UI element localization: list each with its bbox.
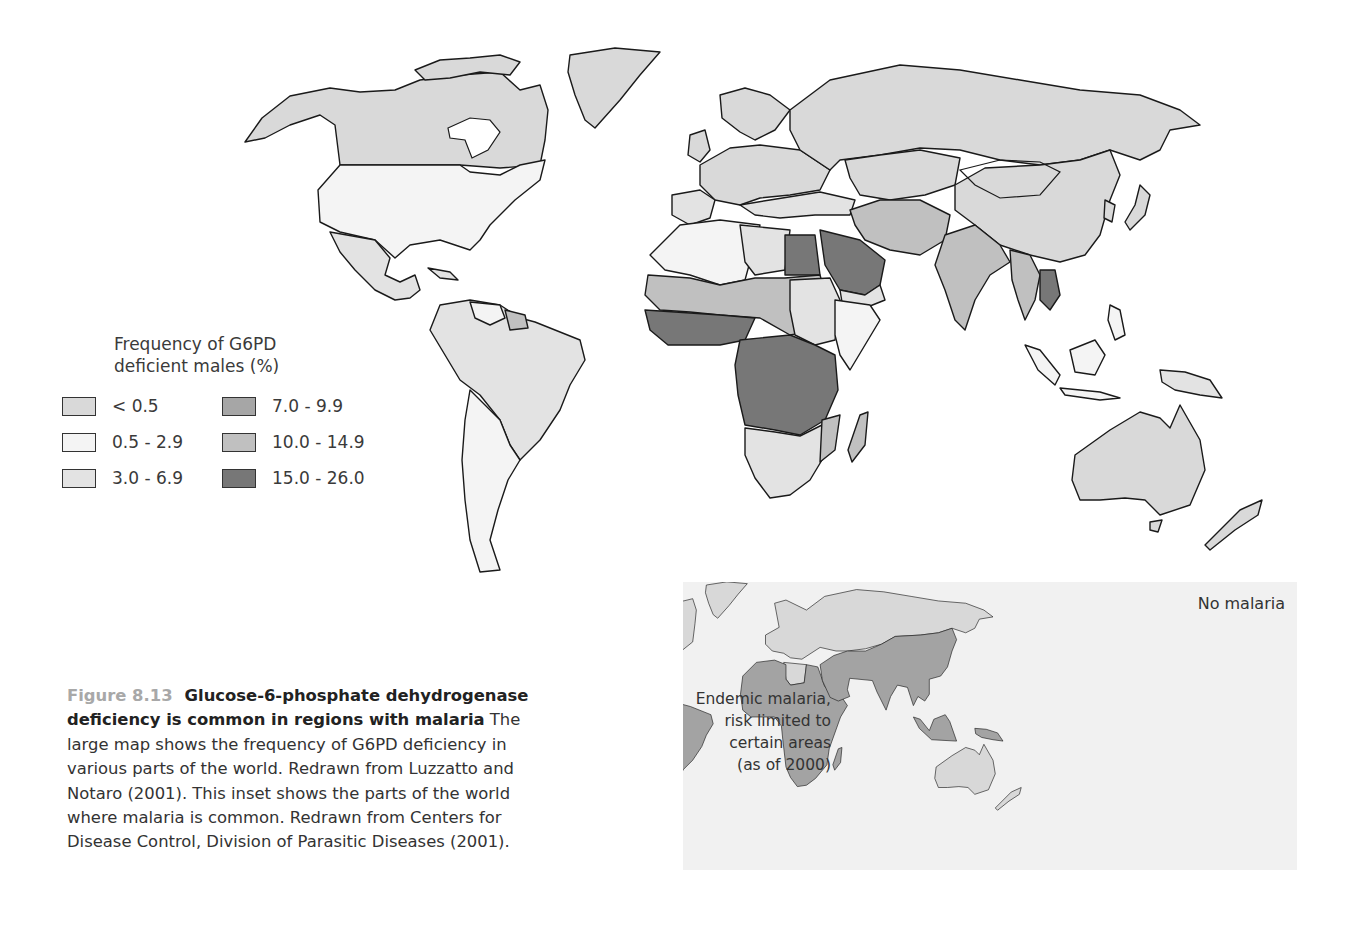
region-south-america-brazil (430, 300, 585, 460)
legend-swatch (62, 397, 96, 416)
inset-australia (935, 744, 996, 794)
inset-new-guinea (975, 728, 1003, 741)
endemic-label-line2: risk limited to (691, 710, 831, 732)
legend-item-15-26: 15.0 - 26.0 (222, 467, 392, 489)
legend-label: 3.0 - 6.9 (112, 468, 183, 488)
legend-label: 7.0 - 9.9 (272, 396, 343, 416)
region-laos-cambodia (1040, 270, 1060, 310)
region-madagascar (848, 412, 868, 462)
endemic-label-line4: (as of 2000) (691, 754, 831, 776)
legend-title-line2: deficient males (%) (114, 355, 392, 377)
region-uk (688, 130, 710, 162)
region-central-asia (845, 150, 960, 200)
region-korea (1104, 200, 1115, 222)
figure-body: The large map shows the frequency of G6P… (67, 710, 520, 851)
region-java (1060, 388, 1120, 400)
region-sudan (790, 278, 840, 345)
legend-title-line1: Frequency of G6PD (114, 333, 392, 355)
legend-swatch (222, 433, 256, 452)
region-australia (1072, 405, 1205, 515)
inset-new-zealand (995, 788, 1021, 811)
legend-title: Frequency of G6PD deficient males (%) (114, 333, 392, 377)
legend-label: 10.0 - 14.9 (272, 432, 365, 452)
inset-indonesia (913, 715, 956, 741)
region-borneo (1070, 340, 1105, 375)
inset-madagascar (833, 747, 842, 770)
region-iberia-mediterranean (672, 190, 715, 225)
region-greenland (568, 48, 660, 128)
region-sumatra (1025, 345, 1060, 385)
legend-item-7-9-9: 7.0 - 9.9 (222, 395, 392, 417)
region-ethiopia-somalia (835, 300, 880, 370)
region-new-guinea (1160, 370, 1222, 398)
endemic-label-line3: certain areas (691, 732, 831, 754)
legend-item-lt-0-5: < 0.5 (62, 395, 222, 417)
legend-swatch (222, 397, 256, 416)
g6pd-world-map (0, 0, 1354, 600)
legend-swatch (62, 469, 96, 488)
region-egypt (785, 235, 820, 275)
region-mozambique (820, 415, 840, 462)
inset-north-america (683, 593, 696, 678)
legend-label: 0.5 - 2.9 (112, 432, 183, 452)
legend-item-3-6-9: 3.0 - 6.9 (62, 467, 222, 489)
region-myanmar-thailand (1010, 250, 1040, 320)
region-southern-africa (745, 425, 825, 498)
region-philippines (1108, 305, 1125, 340)
figure-caption: Figure 8.13Glucose-6-phosphate dehydroge… (67, 684, 547, 855)
legend-grid: < 0.5 7.0 - 9.9 0.5 - 2.9 10.0 - 14.9 3.… (62, 395, 392, 489)
region-canada-alaska (245, 72, 548, 168)
region-japan (1125, 185, 1150, 230)
malaria-inset-map: No malaria Endemic malaria, risk limited… (683, 582, 1297, 870)
legend-swatch (222, 469, 256, 488)
map-legend: Frequency of G6PD deficient males (%) < … (62, 333, 392, 489)
region-caribbean (428, 268, 458, 280)
world-map-svg (0, 0, 1354, 600)
region-russia (790, 65, 1200, 170)
endemic-malaria-label: Endemic malaria, risk limited to certain… (691, 688, 831, 776)
region-scandinavia (720, 88, 790, 140)
figure-number: Figure 8.13 (67, 686, 173, 705)
region-tasmania (1150, 520, 1162, 532)
legend-label: < 0.5 (112, 396, 159, 416)
inset-greenland (705, 582, 747, 618)
legend-item-0-5-2-9: 0.5 - 2.9 (62, 431, 222, 453)
legend-swatch (62, 433, 96, 452)
region-new-zealand (1205, 500, 1262, 550)
no-malaria-label: No malaria (1198, 594, 1285, 613)
legend-item-10-14-9: 10.0 - 14.9 (222, 431, 392, 453)
endemic-label-line1: Endemic malaria, (691, 688, 831, 710)
legend-label: 15.0 - 26.0 (272, 468, 365, 488)
